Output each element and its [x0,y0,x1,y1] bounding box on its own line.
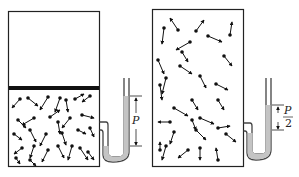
left-molecules [12,94,94,166]
molecule [222,54,232,66]
molecule [228,22,232,37]
molecule [224,132,236,142]
molecule [206,34,222,42]
molecule [78,146,88,160]
molecule [76,128,86,134]
right-pressure-numerator: P [283,104,292,117]
molecule [190,118,196,130]
molecule [198,146,202,160]
molecule [73,94,84,101]
left-manometer: P [100,78,143,162]
molecule [12,132,22,140]
molecule [48,110,60,119]
molecule [190,98,198,110]
molecule [214,82,228,90]
molecule [162,144,168,160]
molecule [198,74,206,88]
right-fluid [248,105,271,159]
molecule [80,113,94,118]
molecule [158,120,172,124]
molecule [14,146,24,154]
left-fluid [104,96,129,161]
molecule [178,148,190,158]
molecule [22,116,36,125]
molecule [12,97,22,108]
molecule [82,94,92,102]
molecule [180,50,188,62]
molecule [28,158,36,166]
molecule [162,76,168,94]
right-manometer: P 2 [244,78,294,160]
molecule [158,83,162,100]
molecule [64,98,68,112]
molecule [170,18,180,32]
molecule [194,128,206,140]
left-container [9,12,100,167]
molecule [60,131,66,145]
molecule [14,156,20,164]
boyles-law-diagram: P P 2 [0,0,299,177]
molecule [156,58,164,74]
molecule [42,148,50,162]
molecule [30,144,36,158]
molecule [40,95,50,110]
molecule [194,20,204,33]
molecule [28,128,36,142]
right-container [153,10,244,167]
molecule [176,40,192,50]
molecule [170,130,176,144]
molecule [62,116,72,128]
right-molecules [156,18,236,162]
molecule [172,106,188,116]
molecule [178,64,192,74]
molecule [55,96,62,112]
left-pressure-label: P [131,114,140,127]
molecule [198,116,214,124]
molecule [26,96,38,106]
piston [9,86,99,90]
molecule [158,142,162,152]
molecule [162,26,166,44]
molecule [216,98,224,110]
right-pressure-denominator: 2 [285,117,292,130]
molecule [56,144,64,158]
molecule [68,144,74,160]
molecule [216,148,220,162]
molecule [88,126,94,137]
molecule [56,120,60,134]
molecule [216,126,230,130]
molecule [40,132,48,146]
